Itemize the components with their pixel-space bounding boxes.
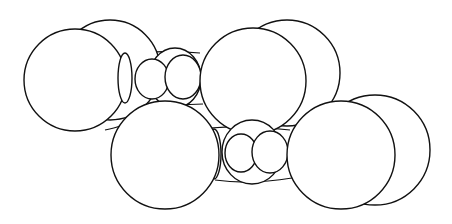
- top-ring-ellipse: [118, 53, 132, 103]
- top-left-front-sphere: [24, 29, 126, 131]
- sphere-layer: [24, 20, 430, 209]
- top-small-sphere-2: [165, 55, 201, 99]
- bottom-left-sphere: [111, 101, 219, 209]
- bottom-right-front-sphere: [287, 101, 395, 209]
- top-right-front-sphere: [200, 28, 306, 134]
- bottom-small-sphere-2: [252, 131, 288, 173]
- top-small-sphere-1: [135, 59, 169, 99]
- molecule-diagram: [0, 0, 452, 224]
